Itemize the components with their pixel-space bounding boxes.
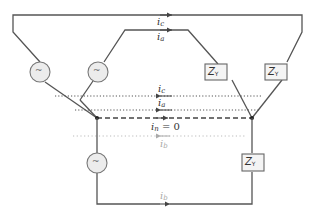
current-label-return-a: ia [158,98,165,110]
phase-b-bottom-wire [97,172,252,204]
impedance-a-label: ZY [208,66,219,77]
current-label-return-b: ib [160,139,168,151]
source-c-symbol: ~ [35,65,43,75]
phase-a-source-to-node-wire [80,81,93,100]
source-a-symbol: ~ [93,65,101,75]
current-label-neutral: in = 0 [151,122,180,134]
current-label-bottom-b: ib [160,191,168,203]
current-label-return-c: ic [158,84,165,96]
phase-a-source-node-wire-2 [80,100,97,118]
current-label-top-a: ia [157,32,164,44]
source-b-symbol: ~ [92,156,100,166]
phase-a-load-to-node-wire [232,80,252,118]
phase-c-load-to-node-wire [252,80,282,118]
impedance-c-label: ZY [268,66,279,77]
current-label-top-c: ic [157,17,164,29]
impedance-b-label: ZY [245,156,256,167]
